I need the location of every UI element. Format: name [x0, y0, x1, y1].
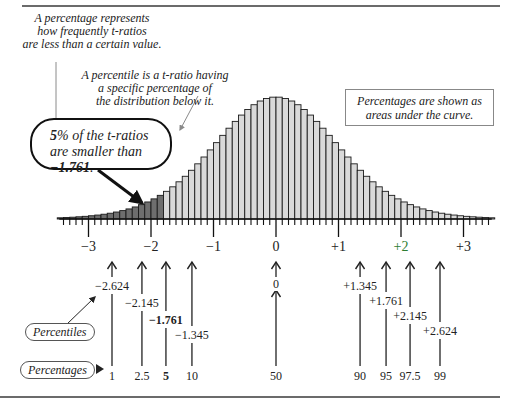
histogram-bar: [139, 205, 145, 219]
histogram-bar: [239, 115, 245, 219]
histogram-bar: [232, 121, 238, 219]
histogram-bar: [339, 150, 345, 219]
histogram-bar: [201, 157, 207, 219]
histogram-bar: [189, 170, 195, 219]
percentage-definition-note: A percentage represents how frequently t…: [22, 12, 162, 51]
note-line: areas under the curve.: [346, 108, 493, 122]
histogram-bar: [220, 135, 226, 219]
five-percent-callout: 5% of the t-ratios are smaller than −1.7…: [30, 118, 172, 170]
callout-text: are smaller than: [50, 144, 142, 159]
percentile-value: −2.145: [119, 297, 165, 310]
histogram-bar: [195, 164, 201, 219]
histogram-bar: [114, 212, 120, 219]
callout-text: % of the t-ratios: [57, 128, 148, 143]
histogram-bar: [332, 143, 338, 219]
percentile-value: −2.624: [89, 280, 135, 293]
percentage-value: 50: [259, 369, 293, 384]
histogram-bar: [157, 195, 163, 219]
percentage-value: 97.5: [393, 369, 427, 384]
histogram-chart: [0, 0, 515, 407]
percentile-value: +1.345: [337, 280, 383, 293]
percentile-value: +2.145: [387, 310, 433, 323]
histogram-bar: [107, 213, 113, 219]
axis-tick-label: +2: [386, 239, 416, 255]
percentage-value: 10: [175, 369, 209, 384]
histogram-bar: [126, 209, 132, 219]
histogram-bar: [207, 150, 213, 219]
histogram-bar: [401, 202, 407, 219]
histogram-bar: [264, 98, 270, 219]
histogram-bar: [270, 97, 276, 219]
histogram-bar: [357, 170, 363, 219]
histogram-bar: [364, 176, 370, 219]
percentiles-tag: Percentiles: [25, 323, 95, 341]
histogram-bar: [314, 121, 320, 219]
histogram-bar: [351, 164, 357, 219]
percentage-value: 1: [95, 369, 129, 384]
callout-percent-value: 5: [50, 128, 57, 143]
histogram-bar: [414, 207, 420, 219]
x-axis: [59, 219, 492, 237]
histogram-bar: [345, 157, 351, 219]
axis-tick-label: +1: [324, 239, 354, 255]
histogram-bar: [170, 187, 176, 219]
histogram-bar: [226, 128, 232, 219]
histogram-bar: [395, 199, 401, 219]
percentile-value: +1.761: [363, 295, 409, 308]
histogram-bar: [245, 109, 251, 219]
histogram-bar: [257, 101, 263, 219]
note-line: Percentages are shown as: [346, 94, 493, 108]
histogram-bar: [151, 199, 157, 219]
histogram-bar: [389, 195, 395, 219]
percentiles-tag-pointer: [66, 297, 95, 325]
histogram-bar: [214, 143, 220, 219]
histogram-bar: [145, 202, 151, 219]
histogram-bar: [426, 211, 432, 219]
histogram-bar: [182, 176, 188, 219]
axis-tick-label: −1: [199, 239, 229, 255]
histogram-bar: [164, 191, 170, 219]
callout-text: .: [90, 160, 94, 175]
histogram-bar: [307, 115, 313, 219]
histogram-bar: [326, 135, 332, 219]
histogram-bar: [439, 213, 445, 219]
percentile-value: −1.345: [169, 329, 215, 342]
histogram-bar: [376, 187, 382, 219]
histogram-bar: [382, 191, 388, 219]
histogram-bar: [432, 212, 438, 219]
histogram-bar: [289, 101, 295, 219]
histogram-bar: [420, 209, 426, 219]
percentile-value: 0: [253, 278, 299, 291]
percentile-value: +2.624: [417, 325, 463, 338]
histogram-bar: [407, 205, 413, 219]
axis-tick-label: +3: [449, 239, 479, 255]
callout-t-value: −1.761: [50, 160, 90, 175]
histogram-bar: [120, 211, 126, 219]
histogram-bar: [370, 182, 376, 219]
percentile-definition-note: A percentile is a t-ratio having a speci…: [80, 69, 230, 108]
histogram-bar: [251, 105, 257, 219]
callout-line-2: are smaller than −1.761.: [50, 144, 170, 176]
callout-line-1: 5% of the t-ratios: [50, 128, 170, 144]
axis-tick-label: −2: [136, 239, 166, 255]
histogram-bar: [132, 207, 138, 219]
histogram-bar: [176, 182, 182, 219]
axis-tick-label: 0: [261, 239, 291, 255]
histogram-bar: [301, 109, 307, 219]
histogram-bar: [295, 105, 301, 219]
histogram-bar: [320, 128, 326, 219]
histogram-bar: [276, 97, 282, 219]
percentile-value: −1.761: [143, 314, 189, 327]
note-line: are less than a certain value.: [22, 38, 162, 51]
histogram-bar: [282, 98, 288, 219]
note-line: the distribution below it.: [80, 95, 230, 108]
areas-note-box: Percentages are shown as areas under the…: [345, 89, 494, 126]
axis-tick-label: −3: [74, 239, 104, 255]
percentage-value: 99: [423, 369, 457, 384]
percentages-tag: Percentages: [20, 361, 95, 379]
